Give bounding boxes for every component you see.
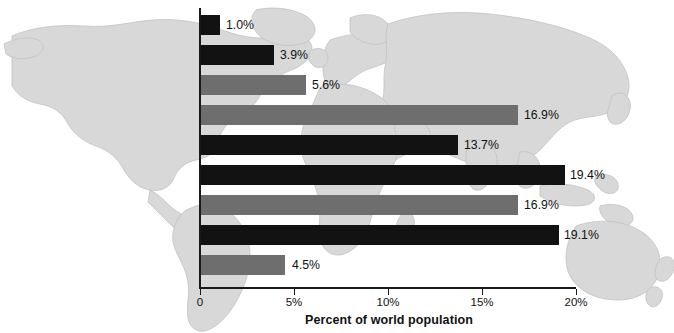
bar-value-label: 5.6% bbox=[312, 70, 340, 100]
bar-protestant bbox=[201, 105, 518, 125]
plot-area: 0 5% 10% 15% 20% Jewish 1.0% Confucian 3… bbox=[0, 0, 674, 333]
bar-jewish bbox=[201, 15, 220, 35]
x-tick-15 bbox=[482, 289, 483, 295]
x-tick-label-0: 0 bbox=[172, 296, 228, 308]
x-tick-10 bbox=[388, 289, 389, 295]
x-axis-title: Percent of world population bbox=[0, 313, 674, 327]
bar-buddhist bbox=[201, 75, 306, 95]
chart-figure: 0 5% 10% 15% 20% Jewish 1.0% Confucian 3… bbox=[0, 0, 674, 333]
x-tick-label-20: 20% bbox=[548, 296, 604, 308]
bar-value-label: 16.9% bbox=[524, 190, 559, 220]
bar-value-label: 1.0% bbox=[226, 10, 254, 40]
bar-value-label: 4.5% bbox=[292, 250, 320, 280]
bar-muslim-islamic bbox=[201, 165, 565, 185]
bar-other bbox=[201, 255, 285, 275]
x-tick-label-5: 5% bbox=[266, 296, 322, 308]
bar-confucian bbox=[201, 45, 274, 65]
bar-nonreligious-atheistic bbox=[201, 225, 559, 245]
bar-value-label: 13.7% bbox=[464, 130, 499, 160]
x-tick-label-15: 15% bbox=[454, 296, 510, 308]
bar-roman-catholic bbox=[201, 195, 518, 215]
bar-value-label: 16.9% bbox=[524, 100, 559, 130]
x-tick-label-10: 10% bbox=[360, 296, 416, 308]
bar-hindu bbox=[201, 135, 458, 155]
bar-value-label: 3.9% bbox=[280, 40, 308, 70]
x-tick-0 bbox=[200, 289, 201, 295]
bar-value-label: 19.1% bbox=[564, 220, 599, 250]
x-tick-20 bbox=[576, 289, 577, 295]
x-axis-title-text: Percent of world population bbox=[305, 313, 473, 327]
bar-value-label: 19.4% bbox=[570, 160, 605, 190]
x-tick-5 bbox=[294, 289, 295, 295]
